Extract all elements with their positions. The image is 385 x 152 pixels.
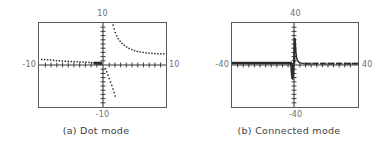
calculator-screen-dot-mode bbox=[38, 22, 167, 108]
axis-label-bottom: -40 bbox=[231, 111, 360, 119]
axis-label-left: -10 bbox=[10, 61, 36, 69]
figure-container: 10 -10 -10 10 (a) Dot mode bbox=[0, 0, 385, 152]
curve-right-dashed-segment bbox=[304, 63, 358, 65]
plot-svg-dot-mode bbox=[39, 23, 166, 107]
figure-panel-connected-mode: 40 -40 -40 40 (b) Connected mode bbox=[193, 0, 385, 152]
curve-spike-upper-body bbox=[294, 38, 296, 63]
curve-dots-descending-tail bbox=[105, 68, 116, 97]
curve-dots-left-branch bbox=[41, 59, 102, 65]
axis-label-bottom: -10 bbox=[38, 111, 167, 119]
plot-area-dot-mode bbox=[39, 23, 166, 107]
axis-label-right: 40 bbox=[362, 61, 385, 69]
panel-caption-dot-mode: (a) Dot mode bbox=[0, 126, 192, 136]
axis-label-right: 10 bbox=[169, 61, 195, 69]
axis-label-top: 40 bbox=[231, 10, 360, 18]
calculator-screen-connected-mode bbox=[231, 22, 359, 108]
plot-svg-connected-mode bbox=[232, 23, 358, 107]
panel-caption-connected-mode: (b) Connected mode bbox=[193, 126, 385, 136]
curve-spike-lower-body bbox=[291, 63, 293, 79]
curve-cluster-near-origin bbox=[94, 62, 102, 65]
axis-label-top: 10 bbox=[38, 10, 167, 18]
figure-panel-dot-mode: 10 -10 -10 10 (a) Dot mode bbox=[0, 0, 192, 152]
curve-left-solid-segment bbox=[232, 62, 292, 65]
plot-area-connected-mode bbox=[232, 23, 358, 107]
curve-dots-right-branch bbox=[112, 24, 164, 54]
axis-label-left: -40 bbox=[203, 61, 229, 69]
